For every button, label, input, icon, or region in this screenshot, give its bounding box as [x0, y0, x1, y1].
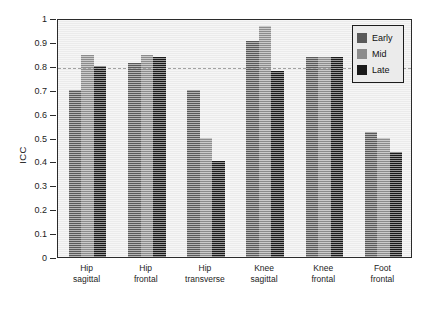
x-axis-label: Kneefrontal [294, 263, 353, 285]
legend-label: Mid [372, 50, 387, 59]
bar-mid-hip-frontal [141, 55, 154, 257]
y-tick-mark [50, 43, 56, 44]
y-tick-label: 0.4 [34, 158, 47, 167]
y-tick-label: 0.3 [34, 182, 47, 191]
bar-early-knee-sagittal [246, 41, 259, 257]
bar-early-knee-frontal [306, 57, 319, 257]
y-tick-mark [50, 91, 56, 92]
legend-item-mid: Mid [357, 46, 403, 62]
x-axis-label-line1: Knee [313, 263, 333, 273]
bar-group [306, 20, 344, 257]
x-axis-label: Hipsagittal [57, 263, 116, 285]
bar-group [128, 20, 166, 257]
x-axis-label-line1: Foot [374, 263, 391, 273]
y-tick-mark [50, 210, 56, 211]
legend-label: Early [372, 34, 393, 43]
x-axis-label: Kneesagittal [235, 263, 294, 285]
bar-group [69, 20, 107, 257]
x-axis-label-line1: Hip [199, 263, 212, 273]
y-tick-label: 0.5 [34, 134, 47, 143]
y-tick-mark [50, 162, 56, 163]
bar-early-hip-frontal [128, 63, 141, 257]
x-axis-label-line2: frontal [294, 274, 353, 285]
legend-item-late: Late [357, 62, 403, 78]
legend-swatch-mid [357, 49, 367, 59]
y-tick-label: 0.9 [34, 38, 47, 47]
y-tick-label: 0.6 [34, 110, 47, 119]
x-axis-label-line2: transverse [175, 274, 234, 285]
bar-early-hip-sagittal [69, 90, 82, 257]
bar-late-hip-sagittal [94, 66, 107, 257]
y-tick-mark [50, 234, 56, 235]
bar-early-foot-frontal [365, 132, 378, 257]
x-axis-label-line2: frontal [353, 274, 412, 285]
bar-late-hip-transverse [212, 161, 225, 257]
x-axis-label-line2: sagittal [235, 274, 294, 285]
bar-group [246, 20, 284, 257]
y-tick-mark [50, 186, 56, 187]
y-axis: 00.10.20.30.40.50.60.70.80.91 [0, 0, 57, 309]
y-tick-mark [50, 139, 56, 140]
legend-swatch-early [357, 33, 367, 43]
x-axis-label: Hiptransverse [175, 263, 234, 285]
bar-early-hip-transverse [187, 90, 200, 257]
legend-label: Late [372, 66, 390, 75]
y-axis-title: ICC [17, 146, 28, 163]
x-axis-label: Footfrontal [353, 263, 412, 285]
y-tick-label: 0.8 [34, 62, 47, 71]
y-tick-label: 0.1 [34, 230, 47, 239]
y-tick-label: 0.7 [34, 86, 47, 95]
bar-group [187, 20, 225, 257]
y-tick-label: 0 [42, 254, 47, 263]
x-axis-label-line2: sagittal [57, 274, 116, 285]
chart-legend: EarlyMidLate [352, 25, 404, 83]
legend-swatch-late [357, 65, 367, 75]
legend-item-early: Early [357, 30, 403, 46]
x-axis-label-line1: Knee [254, 263, 274, 273]
x-axis-label: Hipfrontal [116, 263, 175, 285]
x-axis-labels: HipsagittalHipfrontalHiptransverseKneesa… [57, 263, 412, 303]
x-axis-label-line2: frontal [116, 274, 175, 285]
x-axis-label-line1: Hip [139, 263, 152, 273]
bar-mid-knee-sagittal [259, 26, 272, 257]
y-tick-mark [50, 19, 56, 20]
bar-mid-knee-frontal [318, 57, 331, 257]
bar-mid-foot-frontal [377, 138, 390, 258]
y-tick-mark [50, 258, 56, 259]
y-tick-label: 1 [42, 15, 47, 24]
bar-mid-hip-sagittal [81, 55, 94, 257]
bar-mid-hip-transverse [200, 138, 213, 258]
y-tick-label: 0.2 [34, 206, 47, 215]
bar-late-hip-frontal [153, 57, 166, 257]
bar-late-knee-sagittal [271, 71, 284, 257]
y-tick-mark [50, 115, 56, 116]
bar-late-foot-frontal [390, 152, 403, 257]
bar-late-knee-frontal [331, 57, 344, 257]
icc-bar-chart-figure: 00.10.20.30.40.50.60.70.80.91 ICC Hipsag… [0, 0, 430, 309]
y-tick-mark [50, 67, 56, 68]
x-axis-label-line1: Hip [80, 263, 93, 273]
